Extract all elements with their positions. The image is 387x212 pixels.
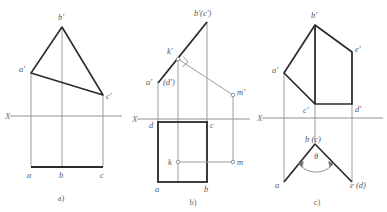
figure-c-caption: c) [314,197,321,207]
figure-c-label-b-c: b (c) [305,134,321,144]
figure-c-label-a: a [275,180,279,190]
figure-b-point-m-prime [231,93,235,97]
figure-c-label-e-prime: e' [355,44,361,54]
figure-a-label-a-prime: a' [19,64,25,74]
figure-b-label-b: b [204,184,208,194]
figure-b-point-k [176,160,180,164]
figure-board: X a' b' c' a b c a) X [0,0,387,212]
figure-b-label-d: d [149,120,154,130]
figure-b-caption: b) [189,197,196,207]
figure-a-group: X a' b' c' a b c a) [4,12,122,203]
figure-c-horizontal-edge-right [315,144,352,182]
figure-c-label-a-prime: a' [272,65,278,75]
figure-a-label-c-prime: c' [106,91,112,101]
figure-c-angle-label: θ [314,151,318,161]
figure-b-label-b-prime-c-prime: b'(c') [194,8,211,18]
figure-b-x-axis-label: X [131,114,138,124]
figure-b-label-a: a [155,184,159,194]
figure-a-x-axis-label: X [4,111,11,121]
figure-c-polygon-frontal [284,25,352,104]
figure-a-triangle-frontal [31,27,103,95]
figure-a-label-b-prime: b' [58,12,64,22]
figure-b-line-k-prime-m-prime [178,59,233,95]
figure-a-label-a: a [27,170,31,180]
figure-c-angle-arc [299,164,334,173]
figure-b-label-m-prime: m' [237,87,245,97]
figure-b-point-k-prime [176,57,180,61]
figure-b-edge-view-line [158,22,207,83]
figure-a-caption: a) [58,193,65,203]
figure-b-label-c: c [210,120,214,130]
figure-b-group: X a' b'(c') (d') k' [131,8,250,207]
figure-c-x-axis-label: X [256,113,263,123]
figure-a-label-b: b [59,170,63,180]
figure-b-label-a-prime: a' [146,77,152,87]
figure-c-group: X θ a' b' e' c' d' b (c) a e (d) [256,10,383,207]
descriptive-geometry-diagram: X a' b' c' a b c a) X [0,0,387,212]
figure-b-point-m [231,160,235,164]
figure-a-label-c: c [100,170,104,180]
figure-b-square-horizontal-projection [158,122,207,182]
figure-c-label-e-d: e (d) [350,180,366,190]
figure-c-label-c-prime: c' [303,105,309,115]
figure-b-label-d-prime: (d') [163,77,175,87]
figure-b-label-k-prime: k' [167,46,173,56]
figure-b-label-k: k [168,157,172,167]
figure-b-label-m: m [237,157,243,167]
figure-c-label-d-prime: d' [355,104,361,114]
figure-c-label-b-prime: b' [311,10,317,20]
